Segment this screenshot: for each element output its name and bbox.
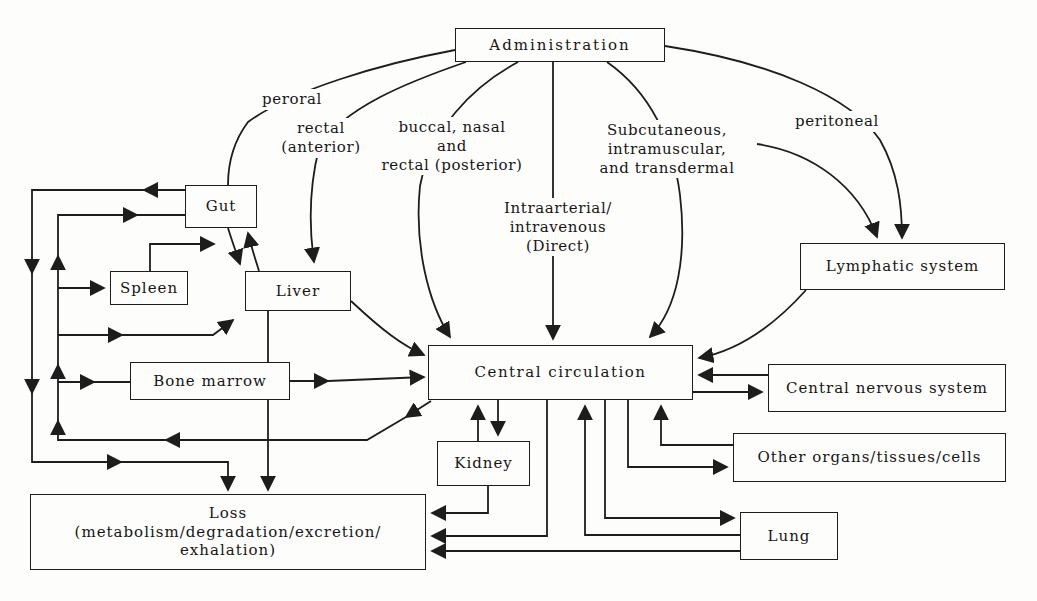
node-central-circulation: Central circulation — [428, 345, 693, 400]
edge-circulation-to-organs-return — [58, 215, 431, 440]
node-kidney: Kidney — [437, 441, 530, 486]
edge-lymphatic-to-circulation — [699, 290, 806, 358]
edge-kidney-to-loss — [432, 486, 488, 513]
route-label-subcutaneous: Subcutaneous, intramuscular, and transde… — [595, 120, 738, 178]
node-other-organs: Other organs/tissues/cells — [733, 433, 1006, 482]
route-label-buccal-nasal-rectal: buccal, nasal and rectal (posterior) — [378, 117, 527, 175]
node-central-nervous-system: Central nervous system — [768, 364, 1006, 412]
node-administration: Administration — [455, 28, 665, 62]
edge-gut-liver-portal — [150, 228, 259, 271]
route-label-peritoneal: peritoneal — [791, 111, 883, 132]
route-label-peroral: peroral — [258, 89, 326, 110]
node-bone-marrow: Bone marrow — [130, 362, 290, 400]
route-label-rectal-anterior: rectal (anterior) — [277, 118, 364, 158]
edge-circulation-kidney — [478, 400, 498, 441]
node-liver: Liver — [245, 271, 351, 311]
diagram-canvas: Administration Gut Spleen Liver Bone mar… — [0, 0, 1037, 601]
node-gut: Gut — [185, 185, 257, 228]
route-label-intraarterial: Intraarterial/ intravenous (Direct) — [500, 198, 616, 256]
edge-subcutaneous-to-lymphatic — [757, 144, 877, 237]
edge-bone-marrow-to-circulation — [290, 377, 424, 381]
edge-circulation-cns — [693, 375, 768, 392]
edge-liver-to-circulation — [351, 301, 424, 355]
node-lymphatic-system: Lymphatic system — [800, 243, 1005, 290]
node-lung: Lung — [740, 512, 838, 560]
edge-admin-subcutaneous-to-circulation — [607, 62, 682, 337]
edge-circulation-other-organs — [628, 400, 733, 467]
edge-gut-to-loss-outer-loop — [32, 190, 228, 490]
node-spleen: Spleen — [110, 271, 188, 305]
node-loss: Loss (metabolism/degradation/excretion/ … — [30, 494, 426, 570]
